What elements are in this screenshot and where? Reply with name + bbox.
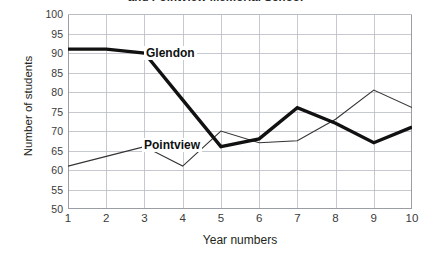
x-tick-5: 5 xyxy=(209,212,233,224)
x-tick-2: 2 xyxy=(94,212,118,224)
y-tick-85: 85 xyxy=(37,68,63,78)
x-axis-title: Year numbers xyxy=(68,233,412,247)
x-tick-3: 3 xyxy=(132,212,156,224)
chart-title-clipped: and Pointview Memorial School xyxy=(0,0,431,9)
horizontal-gridlines xyxy=(68,15,412,210)
y-tick-80: 80 xyxy=(37,87,63,97)
chart-figure: and Pointview Memorial School Number of … xyxy=(0,0,431,257)
series-label-pointview: Pointview xyxy=(142,138,202,152)
x-tick-1: 1 xyxy=(56,212,80,224)
x-tick-4: 4 xyxy=(171,212,195,224)
x-tick-9: 9 xyxy=(362,212,386,224)
series-label-glendon: Glendon xyxy=(144,46,197,60)
y-tick-55: 55 xyxy=(37,185,63,195)
chart-title: and Pointview Memorial School xyxy=(0,0,431,3)
x-tick-8: 8 xyxy=(324,212,348,224)
y-tick-60: 60 xyxy=(37,165,63,175)
data-series-layer xyxy=(68,49,412,166)
plot-area: Glendon Pointview xyxy=(68,14,412,209)
y-tick-70: 70 xyxy=(37,126,63,136)
x-axis-tick-labels: 12345678910 xyxy=(0,212,431,230)
y-tick-75: 75 xyxy=(37,107,63,117)
y-tick-95: 95 xyxy=(37,29,63,39)
y-tick-100: 100 xyxy=(37,9,63,19)
vertical-gridlines xyxy=(69,14,413,209)
plot-svg xyxy=(68,14,412,209)
x-tick-6: 6 xyxy=(247,212,271,224)
y-tick-90: 90 xyxy=(37,48,63,58)
x-tick-10: 10 xyxy=(400,212,424,224)
x-tick-7: 7 xyxy=(285,212,309,224)
y-tick-65: 65 xyxy=(37,146,63,156)
plot-frame xyxy=(68,14,412,209)
y-axis-title: Number of students xyxy=(22,26,34,186)
